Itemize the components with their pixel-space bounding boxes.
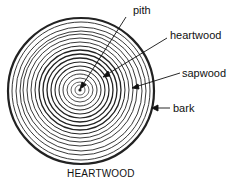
label-pith: pith [133, 5, 151, 16]
label-bark: bark [173, 103, 194, 114]
tree-cross-section [0, 0, 230, 180]
label-heartwood: heartwood [170, 30, 221, 41]
sapwood-leader [135, 73, 180, 87]
diagram-caption: HEARTWOOD [67, 168, 135, 179]
label-sapwood: sapwood [182, 68, 226, 79]
